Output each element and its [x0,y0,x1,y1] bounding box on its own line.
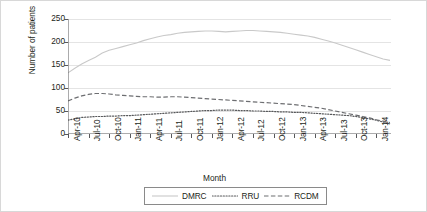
legend-key-dmrc [152,192,178,200]
x-tick-label: Apr-10 [72,117,82,141]
y-tick-label: 150 [39,60,65,68]
x-tick-mark [68,134,69,138]
x-tick-mark [232,134,233,138]
x-tick-mark [356,134,357,138]
x-tick-mark [294,134,295,138]
legend-item-dmrc[interactable]: DMRC [152,191,207,201]
legend-item-rru[interactable]: RRU [212,191,260,201]
x-tick-label: Jan-14 [380,117,390,141]
x-tick-label: Jul-12 [256,120,266,141]
x-tick-mark [274,134,275,138]
x-tick-mark [253,134,254,138]
y-tick-mark [64,65,68,66]
legend-key-rru [212,192,238,200]
y-tick-label: 200 [39,37,65,45]
x-tick-mark [171,134,172,138]
y-tick-label: 250 [39,14,65,22]
x-tick-label: Oct-12 [277,117,287,141]
y-tick-label: 0 [39,129,65,137]
x-tick-mark [191,134,192,138]
x-tick-mark [212,134,213,138]
x-tick-mark [315,134,316,138]
y-tick-label: 50 [39,106,65,114]
legend-label: RCDM [294,191,319,201]
x-tick-mark [89,134,90,138]
x-tick-label: Jan-11 [133,117,143,141]
x-tick-mark [335,134,336,138]
x-tick-label: Jul-10 [92,120,102,141]
legend-label: DMRC [182,191,207,201]
x-tick-label: Oct-13 [359,117,369,141]
x-tick-mark [150,134,151,138]
series-line-dmrc [68,31,390,73]
x-axis-title: Month [1,173,427,183]
x-tick-mark [130,134,131,138]
y-tick-mark [64,19,68,20]
x-tick-label: Jan-13 [298,117,308,141]
chart-legend: DMRCRRURCDM [144,187,327,205]
x-tick-mark [376,134,377,138]
y-tick-mark [64,42,68,43]
x-tick-label: Apr-11 [154,118,164,141]
y-axis-title: Number of patients [27,0,37,96]
y-tick-mark [64,88,68,89]
x-tick-label: Jul-11 [174,120,184,141]
x-tick-label: Jul-13 [339,120,349,141]
y-tick-label: 100 [39,83,65,91]
x-tick-label: Oct-10 [113,117,123,141]
x-tick-label: Jan-12 [215,117,225,141]
chart-figure: Number of patients 050100150200250 Apr-1… [0,0,427,212]
y-tick-mark [64,111,68,112]
legend-label: RRU [242,191,260,201]
x-tick-label: Apr-13 [318,117,328,141]
legend-key-rcdm [264,192,290,200]
y-tick-mark [64,134,68,135]
legend-item-rcdm[interactable]: RCDM [264,191,319,201]
x-tick-mark [109,134,110,138]
x-tick-label: Apr-12 [236,117,246,141]
x-tick-label: Oct-11 [195,118,205,141]
